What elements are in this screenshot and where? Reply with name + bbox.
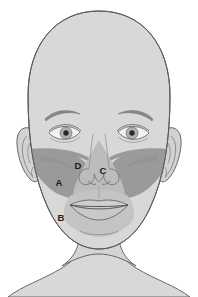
face-dermatome-diagram: A B C D (0, 0, 198, 297)
label-b: B (58, 212, 65, 223)
label-c: C (100, 165, 107, 176)
label-d: D (75, 160, 82, 171)
label-a: A (56, 177, 63, 188)
right-pupil (129, 130, 134, 135)
face-diagram-svg: A B C D (0, 0, 198, 297)
left-pupil (63, 130, 68, 135)
